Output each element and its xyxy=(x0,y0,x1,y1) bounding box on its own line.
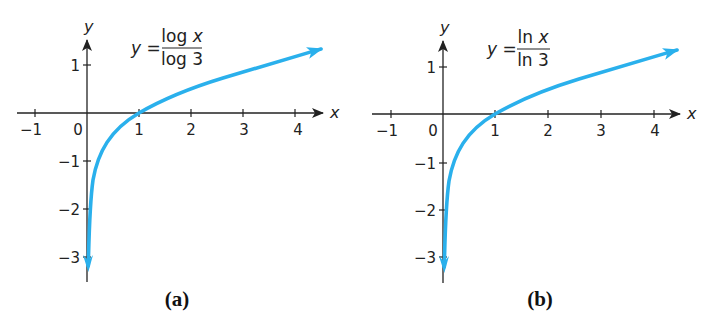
figure: −1 0 1 2 3 4 1 −1 −2 −3 x y y = log x lo… xyxy=(0,0,714,328)
origin-label: 0 xyxy=(428,122,438,140)
equation-a: y = log x log 3 xyxy=(130,26,204,69)
x-tick-label: 2 xyxy=(543,122,553,140)
equation-numerator: log x xyxy=(161,26,203,46)
y-tick-label: 1 xyxy=(426,59,436,77)
x-axis-label: x xyxy=(329,103,340,122)
x-tick-label: −1 xyxy=(376,122,398,140)
y-tick-label: −1 xyxy=(58,153,80,171)
x-tick-label: 4 xyxy=(650,122,660,140)
equation-b: y = ln x ln 3 xyxy=(486,27,550,70)
panel-b: −1 0 1 2 3 4 1 −1 −2 −3 x y y = ln x ln … xyxy=(372,18,697,311)
y-tick-label: −3 xyxy=(58,249,80,267)
y-tick-label: 1 xyxy=(70,57,80,75)
x-tick-label: 1 xyxy=(134,121,144,139)
y-axis-label: y xyxy=(83,17,94,36)
log-curve xyxy=(88,49,321,266)
x-axis-label: x xyxy=(686,104,697,123)
panel-a: −1 0 1 2 3 4 1 −1 −2 −3 x y y = log x lo… xyxy=(17,17,340,311)
x-tick-label: 3 xyxy=(596,122,606,140)
y-tick-label: −3 xyxy=(414,249,436,267)
y-tick-label: −1 xyxy=(414,155,436,173)
x-tick-label: 4 xyxy=(293,121,303,139)
x-tick-label: 3 xyxy=(239,121,249,139)
caption-b: (b) xyxy=(527,287,553,311)
x-tick-label: 2 xyxy=(186,121,196,139)
svg-text:y =: y = xyxy=(130,38,161,58)
equation-denominator: ln 3 xyxy=(517,50,549,70)
y-tick-label: −2 xyxy=(414,202,436,220)
origin-label: 0 xyxy=(73,121,83,139)
x-tick-label: −1 xyxy=(20,121,42,139)
svg-text:y =: y = xyxy=(486,39,517,59)
ln-curve xyxy=(444,50,677,267)
y-axis-label: y xyxy=(439,18,450,37)
y-tick-label: −2 xyxy=(58,201,80,219)
caption-a: (a) xyxy=(165,287,190,311)
equation-numerator: ln x xyxy=(518,27,550,47)
x-tick-label: 1 xyxy=(490,122,500,140)
equation-denominator: log 3 xyxy=(161,49,203,69)
